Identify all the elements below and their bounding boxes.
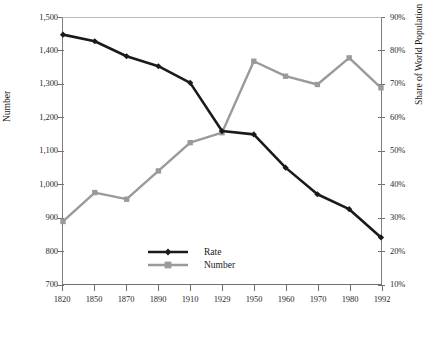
y-left-tick-900: 900 [18, 212, 58, 222]
datapoint-rate-1820 [60, 32, 66, 38]
x-tickmark-1950 [254, 285, 255, 291]
y-left-tick-1100: 1,100 [18, 145, 58, 155]
y-right-tick-10: 10% [390, 279, 426, 289]
y-left-tick-1300: 1,300 [18, 78, 58, 88]
series-number [60, 55, 383, 224]
datapoint-number-1970 [315, 82, 320, 87]
y-left-tick-1000: 1,000 [18, 179, 58, 189]
legend-label-rate: Rate [190, 247, 221, 257]
x-tickmark-1820 [62, 285, 63, 291]
x-tickmark-1992 [382, 285, 383, 291]
x-tickmark-1980 [350, 285, 351, 291]
y-left-tick-700: 700 [18, 279, 58, 289]
datapoint-number-1950 [251, 59, 256, 64]
y-right-tick-80: 80% [390, 45, 426, 55]
y-right-tick-50: 50% [390, 145, 426, 155]
datapoint-number-1890 [156, 168, 161, 173]
datapoint-number-1820 [60, 219, 65, 224]
x-tickmark-1970 [318, 285, 319, 291]
x-tickmark-1890 [158, 285, 159, 291]
series-line-rate [63, 35, 381, 238]
datapoint-number-1992 [378, 85, 383, 90]
x-tickmark-1960 [286, 285, 287, 291]
y-left-tick-800: 800 [18, 246, 58, 256]
series-line-number [63, 58, 381, 222]
datapoint-number-1960 [283, 74, 288, 79]
legend-item-rate: Rate [146, 245, 266, 258]
y-right-tick-20: 20% [390, 246, 426, 256]
datapoint-number-1910 [188, 140, 193, 145]
series-rate [60, 32, 384, 241]
y-right-tick-90: 90% [390, 12, 426, 22]
x-tickmark-1910 [190, 285, 191, 291]
x-tick-1992: 1992 [362, 294, 402, 304]
y-left-tick-1200: 1,200 [18, 112, 58, 122]
datapoint-number-1850 [92, 190, 97, 195]
y-right-tick-60: 60% [390, 112, 426, 122]
legend-label-number: Number [190, 260, 235, 270]
y-right-tick-30: 30% [390, 212, 426, 222]
chart-legend: Rate Number [146, 245, 266, 271]
legend-swatch-number-icon [146, 259, 190, 271]
y-left-tick-1500: 1,500 [18, 12, 58, 22]
legend-item-number: Number [146, 258, 266, 271]
x-tickmark-1850 [94, 285, 95, 291]
x-tickmark-1929 [222, 285, 223, 291]
y-right-tick-40: 40% [390, 179, 426, 189]
chart-container: Number Share of World Population 1,500 1… [0, 0, 426, 337]
y-left-tick-1400: 1,400 [18, 45, 58, 55]
datapoint-number-1980 [347, 55, 352, 60]
datapoint-number-1870 [124, 197, 129, 202]
y-axis-title-left: Number [2, 91, 12, 122]
legend-swatch-rate-icon [146, 246, 190, 258]
y-right-tick-70: 70% [390, 78, 426, 88]
x-tickmark-1870 [126, 285, 127, 291]
